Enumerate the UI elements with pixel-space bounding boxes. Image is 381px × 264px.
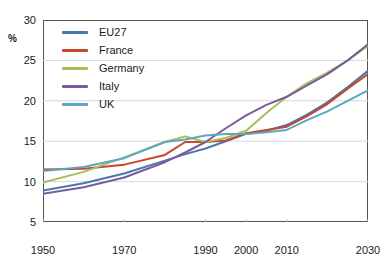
- legend-item-label: France: [99, 45, 133, 56]
- legend-color-swatch: [62, 85, 88, 88]
- legend-color-swatch: [62, 67, 88, 70]
- legend-item-france[interactable]: France: [62, 44, 144, 57]
- y-tick-label: 15: [8, 135, 36, 147]
- legend-color-swatch: [62, 49, 88, 52]
- legend-item-uk[interactable]: UK: [62, 98, 144, 111]
- legend-item-label: Italy: [99, 81, 119, 92]
- legend-item-label: UK: [99, 99, 114, 110]
- legend-color-swatch: [62, 31, 88, 34]
- legend-item-label: EU27: [99, 27, 127, 38]
- x-tick-label: 2010: [275, 244, 299, 256]
- x-tick-label: 2030: [356, 244, 380, 256]
- y-tick-label: 25: [8, 54, 36, 66]
- legend-color-swatch: [62, 103, 88, 106]
- legend-item-italy[interactable]: Italy: [62, 80, 144, 93]
- y-tick-label: 5: [8, 216, 36, 228]
- y-tick-label: 20: [8, 95, 36, 107]
- y-axis-tick-labels: 51015202530: [4, 0, 36, 264]
- line-chart: % 51015202530 195019701990200020102030 E…: [0, 0, 381, 264]
- legend-item-germany[interactable]: Germany: [62, 62, 144, 75]
- legend-item-eu27[interactable]: EU27: [62, 26, 144, 39]
- legend-item-label: Germany: [99, 63, 144, 74]
- x-tick-label: 2000: [234, 244, 258, 256]
- y-tick-label: 30: [8, 14, 36, 26]
- y-tick-label: 10: [8, 176, 36, 188]
- x-tick-label: 1990: [193, 244, 217, 256]
- chart-legend: EU27FranceGermanyItalyUK: [62, 26, 144, 111]
- x-tick-label: 1970: [112, 244, 136, 256]
